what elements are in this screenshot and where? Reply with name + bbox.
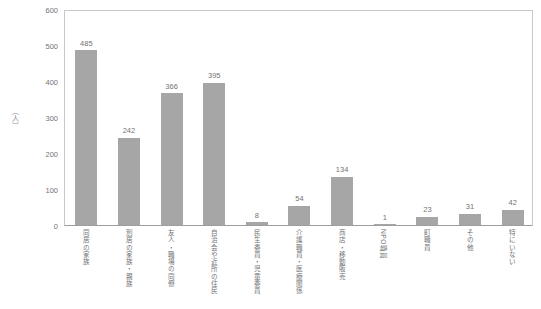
x-axis-category-label: 特にいない xyxy=(508,229,515,266)
bar-chart: （人） 6005004003002001000 4852423663958541… xyxy=(0,0,541,309)
bar-slot: 485 xyxy=(65,11,108,225)
y-axis-tick-label: 600 xyxy=(45,6,58,15)
bar[interactable] xyxy=(161,93,183,225)
x-axis-category-label: 商店・移動販売 xyxy=(337,229,344,280)
bar-value-label: 23 xyxy=(423,206,431,214)
bar[interactable] xyxy=(331,177,353,225)
x-axis-category-label: 友人・職場の同僚 xyxy=(167,229,174,287)
bar-slot: 134 xyxy=(321,11,364,225)
bar-slot: 242 xyxy=(108,11,151,225)
bar[interactable] xyxy=(459,214,481,225)
x-axis-category-label: NPO職員 xyxy=(380,229,387,260)
bar[interactable] xyxy=(246,222,268,225)
bar[interactable] xyxy=(374,224,396,225)
y-axis-tick-label: 100 xyxy=(45,186,58,195)
bar-value-label: 42 xyxy=(509,199,517,207)
bar-value-label: 242 xyxy=(123,127,136,135)
bar[interactable] xyxy=(203,83,225,225)
x-axis-category-label: 別居の家族・親族 xyxy=(124,229,131,287)
x-axis-category-label: 同居の家族 xyxy=(82,229,89,266)
bar-value-label: 366 xyxy=(165,83,178,91)
bar[interactable] xyxy=(75,50,97,225)
y-axis-tick-label: 0 xyxy=(54,222,58,231)
y-axis-title: （人） xyxy=(2,98,28,138)
bar-slot: 31 xyxy=(449,11,492,225)
bar-value-label: 1 xyxy=(383,214,387,222)
bar-value-label: 31 xyxy=(466,203,474,211)
x-axis-category-label: 介護職員・医療関係 xyxy=(295,229,302,295)
y-axis-tick-label: 400 xyxy=(45,78,58,87)
bar-value-label: 134 xyxy=(336,166,349,174)
bar-value-label: 485 xyxy=(80,40,93,48)
x-axis-category-label: その他 xyxy=(465,229,472,251)
bar-slot: 8 xyxy=(236,11,279,225)
bar-slot: 54 xyxy=(278,11,321,225)
bars-layer: 4852423663958541341233142 xyxy=(65,11,532,225)
bar-slot: 23 xyxy=(406,11,449,225)
y-axis-tick-labels: 6005004003002001000 xyxy=(26,0,62,226)
bar[interactable] xyxy=(118,138,140,225)
bar-value-label: 395 xyxy=(208,72,221,80)
x-axis-category-labels: 同居の家族別居の家族・親族友人・職場の同僚自治会や近所の住民民生委員・児童委員介… xyxy=(64,229,533,309)
bar-value-label: 54 xyxy=(295,195,303,203)
bar-slot: 42 xyxy=(491,11,534,225)
y-axis-tick-label: 200 xyxy=(45,150,58,159)
y-axis-tick-label: 500 xyxy=(45,42,58,51)
bar-slot: 1 xyxy=(363,11,406,225)
bar-slot: 366 xyxy=(150,11,193,225)
plot-area: 4852423663958541341233142 xyxy=(64,10,533,226)
bar-value-label: 8 xyxy=(255,212,259,220)
bar-slot: 395 xyxy=(193,11,236,225)
x-axis-category-label: 民生委員・児童委員 xyxy=(252,229,259,295)
y-axis-tick-label: 300 xyxy=(45,114,58,123)
bar[interactable] xyxy=(288,206,310,225)
x-axis-category-label: 自治会や近所の住民 xyxy=(210,229,217,295)
x-axis-category-label: 町職員 xyxy=(423,229,430,251)
bar[interactable] xyxy=(502,210,524,225)
bar[interactable] xyxy=(416,217,438,225)
